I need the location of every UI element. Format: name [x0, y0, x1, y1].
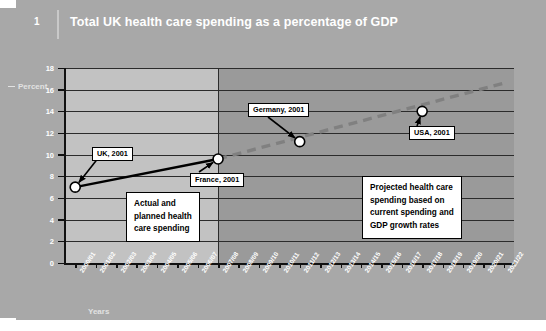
x-tick-mark — [177, 263, 179, 268]
x-tick-mark — [96, 263, 98, 268]
y-tick-label: 8 — [12, 172, 54, 181]
y-tick-label: 14 — [12, 107, 54, 116]
x-tick-mark — [136, 263, 138, 268]
gridline — [65, 90, 514, 91]
x-tick-mark — [463, 263, 465, 268]
infobox-projected-spending[interactable]: Projected health carespending based oncu… — [362, 176, 462, 239]
x-tick-mark — [116, 263, 118, 268]
x-tick-mark — [75, 263, 77, 268]
y-tick-label: 4 — [12, 216, 54, 225]
page-title: Total UK health care spending as a perce… — [70, 15, 398, 29]
y-tick-label: 16 — [12, 86, 54, 95]
y-tick-label: 10 — [12, 151, 54, 160]
y-tick-label: 18 — [12, 64, 54, 73]
x-tick-mark — [218, 263, 220, 268]
callout-germany[interactable]: Germany, 2001 — [248, 103, 309, 117]
x-tick-mark — [381, 263, 383, 268]
x-tick-mark — [300, 263, 302, 268]
infobox-actual-spending[interactable]: Actual andplanned healthcare spending — [126, 192, 200, 242]
infobox-projected-line: spending based on — [370, 195, 454, 208]
callout-usa[interactable]: USA, 2001 — [409, 126, 455, 140]
infobox-actual-line: planned health — [134, 211, 192, 224]
y-tick-mark — [58, 154, 65, 156]
infobox-projected-line: current spending and — [370, 207, 454, 220]
callout-france[interactable]: France, 2001 — [190, 173, 244, 187]
x-tick-mark — [443, 263, 445, 268]
y-tick-label: 2 — [12, 237, 54, 246]
x-tick-mark — [422, 263, 424, 268]
y-axis-line — [64, 68, 66, 264]
y-tick-mark — [58, 219, 65, 221]
header-divider — [57, 10, 59, 39]
x-tick-mark — [259, 263, 261, 268]
x-tick-mark — [361, 263, 363, 268]
y-tick-mark — [58, 263, 65, 265]
y-tick-mark — [58, 241, 65, 243]
callout-uk[interactable]: UK, 2001 — [92, 147, 133, 161]
infobox-projected-line: Projected health care — [370, 182, 454, 195]
figure-number: 1 — [24, 16, 50, 27]
x-tick-mark — [320, 263, 322, 268]
x-tick-mark — [402, 263, 404, 268]
x-tick-mark — [504, 263, 506, 268]
y-tick-mark — [58, 111, 65, 113]
y-tick-mark — [58, 89, 65, 91]
infobox-actual-line: care spending — [134, 223, 192, 236]
x-tick-mark — [483, 263, 485, 268]
x-tick-mark — [198, 263, 200, 268]
x-tick-mark — [279, 263, 281, 268]
y-tick-mark — [58, 176, 65, 178]
x-tick-mark — [238, 263, 240, 268]
y-tick-label: 0 — [12, 259, 54, 268]
projection-split-line — [218, 68, 219, 263]
y-tick-mark — [58, 133, 65, 135]
infobox-actual-line: Actual and — [134, 198, 192, 211]
y-tick-mark — [58, 68, 65, 70]
infobox-projected-line: GDP growth rates — [370, 220, 454, 233]
y-tick-mark — [58, 198, 65, 200]
x-tick-mark — [341, 263, 343, 268]
x-tick-mark — [157, 263, 159, 268]
y-tick-label: 12 — [12, 129, 54, 138]
x-axis-title: Years — [88, 307, 109, 316]
y-tick-label: 6 — [12, 194, 54, 203]
figure-root: 1 Total UK health care spending as a per… — [0, 0, 546, 331]
gridline — [65, 68, 514, 69]
